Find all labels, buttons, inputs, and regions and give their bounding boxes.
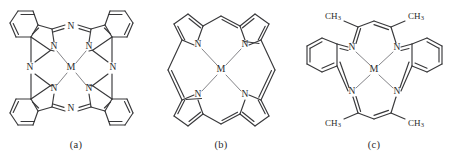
figure-root: M N N N N N N N N: [0, 0, 456, 154]
meso-nitrogen-a-left: N: [27, 62, 34, 72]
isoindole-unit-a-top-left: [10, 11, 65, 62]
methyl-label-c-bottom-left: CH3: [325, 118, 341, 128]
benzene-ring-c-left: [307, 38, 348, 91]
metal-atom-label-a: M: [67, 61, 76, 72]
diiminate-bridge-c-top: [344, 21, 405, 44]
metal-atom-label-b: M: [217, 63, 226, 74]
pyrrole-ring-b-bottom-right: [240, 95, 269, 126]
pyrrole-nitrogen-b-3: N: [195, 89, 202, 99]
isoindole-unit-a-bottom-right: [78, 74, 133, 125]
methyl-label-c-top-left: CH3: [325, 11, 341, 21]
structure-panel-b: M N N N N: [148, 0, 294, 154]
structure-panel-c: M N N N N: [292, 0, 456, 154]
pyrrole-nitrogen-a-1: N: [51, 41, 58, 51]
nitrogen-c-1: N: [349, 42, 356, 52]
nitrogen-c-2: N: [394, 42, 401, 52]
meso-nitrogen-a-bottom: N: [68, 103, 75, 113]
panel-caption-a: (a): [0, 139, 152, 150]
pyrrole-nitrogen-b-2: N: [242, 39, 249, 49]
methyl-label-c-bottom-right: CH3: [408, 118, 424, 128]
nitrogen-c-3: N: [349, 86, 356, 96]
panel-caption-b: (b): [148, 139, 294, 150]
structure-panel-a: M N N N N N N N N: [0, 0, 152, 154]
pyrrole-nitrogen-a-2: N: [86, 41, 93, 51]
panel-caption-c: (c): [292, 139, 456, 150]
meso-nitrogen-a-right: N: [110, 62, 117, 72]
pyrrole-nitrogen-b-1: N: [195, 39, 202, 49]
metal-atom-label-c: M: [370, 63, 379, 74]
dibenzotetraaza-annulene-structure: M N N N N: [292, 0, 456, 140]
meso-nitrogen-a-top: N: [68, 21, 75, 31]
pyrrole-nitrogen-b-4: N: [242, 89, 249, 99]
isoindole-unit-a-top-right: [78, 11, 133, 62]
methyl-label-c-top-right: CH3: [408, 11, 424, 21]
diiminate-bridge-c-bottom: [344, 97, 405, 120]
benzene-ring-c-right: [401, 38, 442, 91]
porphyrin-structure: M N N N N: [148, 0, 294, 140]
phthalocyanine-structure: M N N N N N N N N: [0, 0, 152, 140]
isoindole-unit-a-bottom-left: [10, 74, 65, 125]
